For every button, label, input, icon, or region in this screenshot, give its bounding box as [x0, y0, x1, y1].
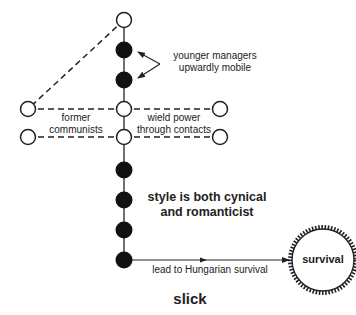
filled-node — [116, 252, 133, 269]
pointer-arrow-upper — [138, 52, 160, 64]
filled-node — [116, 162, 133, 179]
slick-title-text: slick — [173, 290, 206, 307]
mid-arrow-icon — [200, 258, 207, 263]
style-line2-text: and romanticist — [142, 205, 272, 220]
style-line1-text: style is both cynical — [142, 190, 272, 205]
communists-text: communists — [36, 124, 116, 136]
open-node-top — [117, 13, 132, 28]
filled-node — [116, 42, 133, 59]
younger-managers-text: younger managers — [162, 50, 268, 62]
survival-label: survival — [293, 253, 353, 266]
open-node-left-upper — [21, 102, 36, 117]
pointer-arrow-lower — [138, 64, 160, 78]
former-text: former — [36, 112, 116, 124]
through-contacts-text: through contacts — [130, 124, 218, 136]
dashed-top-to-left — [28, 20, 124, 109]
style-label: style is both cynical and romanticist — [142, 190, 272, 220]
lead-to-label: lead to Hungarian survival — [145, 264, 275, 276]
diagram-title: slick — [155, 290, 225, 308]
wield-power-text: wield power — [130, 112, 218, 124]
younger-managers-label: younger managers upwardly mobile — [162, 50, 268, 74]
former-communists-label: former communists — [36, 112, 116, 136]
filled-node — [116, 72, 133, 89]
filled-node — [116, 192, 133, 209]
filled-node — [116, 222, 133, 239]
upwardly-mobile-text: upwardly mobile — [162, 62, 268, 74]
lead-to-text: lead to Hungarian survival — [152, 264, 268, 275]
survival-text: survival — [302, 253, 344, 265]
open-node-left-lower — [21, 130, 36, 145]
wield-power-label: wield power through contacts — [130, 112, 218, 136]
